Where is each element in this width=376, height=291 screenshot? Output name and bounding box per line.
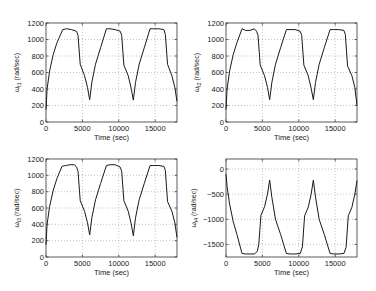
data-line xyxy=(46,165,177,245)
y-tick-label: 1200 xyxy=(27,155,44,164)
x-tick-label: 10000 xyxy=(108,124,129,133)
y-tick-label: 0 xyxy=(40,118,44,127)
y-tick-label: 800 xyxy=(211,52,224,61)
x-tick-label: 15000 xyxy=(145,124,166,133)
data-line xyxy=(46,29,177,110)
y-tick-label: 200 xyxy=(31,236,44,245)
y-tick-label: 400 xyxy=(211,85,224,94)
y-tick-label: −1000 xyxy=(203,215,224,224)
x-tick-label: 5000 xyxy=(254,124,271,133)
x-tick-label: 0 xyxy=(224,124,228,133)
x-tick-label: 5000 xyxy=(254,259,271,268)
x-tick-label: 0 xyxy=(44,259,48,268)
x-tick-label: 15000 xyxy=(325,124,346,133)
y-tick-label: 600 xyxy=(211,68,224,77)
y-axis-label: ωt1 (rad/sec) xyxy=(13,53,22,92)
data-line xyxy=(226,174,357,254)
y-tick-label: 800 xyxy=(31,187,44,196)
y-tick-label: 1200 xyxy=(207,19,224,28)
subplot-omega-t2: 050001000015000020040060080010001200Time… xyxy=(193,19,357,142)
x-tick-label: 15000 xyxy=(325,259,346,268)
y-tick-label: 600 xyxy=(31,204,44,213)
x-tick-label: 0 xyxy=(44,124,48,133)
y-tick-label: 400 xyxy=(31,220,44,229)
x-tick-label: 10000 xyxy=(288,259,309,268)
figure: 050001000015000020040060080010001200Time… xyxy=(0,0,376,291)
subplot-omega-t1: 050001000015000020040060080010001200Time… xyxy=(13,19,177,142)
data-line xyxy=(226,29,357,110)
x-tick-label: 10000 xyxy=(108,259,129,268)
y-tick-label: 600 xyxy=(31,68,44,77)
x-tick-label: 5000 xyxy=(74,259,91,268)
x-tick-label: 0 xyxy=(224,259,228,268)
y-axis-label: ωt4 (rad/sec) xyxy=(190,188,199,227)
x-tick-label: 10000 xyxy=(288,124,309,133)
y-tick-label: −1500 xyxy=(203,240,224,249)
y-tick-label: 200 xyxy=(211,101,224,110)
y-tick-label: 0 xyxy=(220,165,224,174)
y-tick-label: 0 xyxy=(220,118,224,127)
y-tick-label: 400 xyxy=(31,85,44,94)
y-tick-label: 1000 xyxy=(27,35,44,44)
y-tick-label: 0 xyxy=(40,253,44,262)
y-tick-label: 1000 xyxy=(207,35,224,44)
y-axis-label: ωt3 (rad/sec) xyxy=(13,188,22,227)
x-axis-label: Time (sec) xyxy=(274,268,310,277)
x-tick-label: 5000 xyxy=(74,124,91,133)
x-axis-label: Time (sec) xyxy=(94,268,130,277)
subplot-omega-t3: 050001000015000020040060080010001200Time… xyxy=(13,155,177,277)
subplot-omega-t4: 050001000015000−1500−1000−5000Time (sec)… xyxy=(190,159,357,277)
y-tick-label: 200 xyxy=(31,101,44,110)
y-tick-label: 1200 xyxy=(27,19,44,28)
x-tick-label: 15000 xyxy=(145,259,166,268)
axes-frame xyxy=(226,159,357,257)
x-axis-label: Time (sec) xyxy=(274,133,310,142)
y-tick-label: 800 xyxy=(31,52,44,61)
y-tick-label: 1000 xyxy=(27,171,44,180)
x-axis-label: Time (sec) xyxy=(94,133,130,142)
y-tick-label: −500 xyxy=(207,190,224,199)
y-axis-label: ωt2 (rad/sec) xyxy=(193,53,202,92)
